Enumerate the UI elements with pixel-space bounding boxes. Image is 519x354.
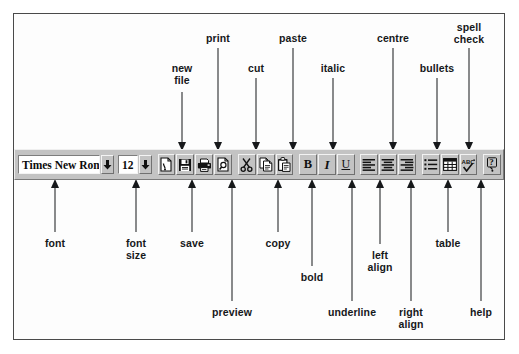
font-size-field[interactable]: 12 (118, 155, 138, 174)
spell-check-button[interactable]: ABC (460, 154, 478, 175)
callout-arrowhead-font (51, 179, 59, 188)
copy-pages-icon (259, 157, 273, 172)
callout-leader-left-align (380, 188, 381, 244)
italic-icon: I (324, 157, 329, 173)
chevron-down-icon (141, 159, 150, 170)
callout-leader-bold (312, 188, 313, 266)
question-mark-help-icon: ? (485, 157, 499, 172)
bold-button[interactable]: B (299, 154, 317, 175)
callout-arrowhead-left-align (376, 179, 384, 188)
new-file-icon (159, 157, 173, 172)
callout-leader-right-align (411, 188, 412, 301)
align-right-icon (400, 158, 414, 171)
callout-leader-print (218, 48, 219, 142)
printer-icon (197, 158, 212, 172)
callout-label-font-size: font size (126, 238, 146, 261)
callout-leader-bullets (437, 78, 438, 142)
bold-icon: B (304, 157, 312, 172)
callout-label-cut: cut (248, 63, 264, 75)
callout-arrowhead-preview (228, 179, 236, 188)
spell-check-abc-tick-icon: ABC (461, 158, 476, 172)
callout-label-preview: preview (212, 307, 252, 319)
bulleted-list-icon (424, 158, 438, 171)
callout-label-help: help (470, 307, 492, 319)
callout-label-font: font (45, 238, 65, 250)
callout-arrowhead-right-align (407, 179, 415, 188)
callout-leader-font-size (136, 188, 137, 232)
table-button[interactable] (441, 154, 459, 175)
callout-arrowhead-table (444, 179, 452, 188)
callout-leader-save (192, 188, 193, 232)
callout-leader-paste (293, 48, 294, 142)
centre-button[interactable] (379, 154, 397, 175)
callout-label-table: table (435, 238, 460, 250)
callout-label-centre: centre (377, 33, 409, 45)
bullets-button[interactable] (422, 154, 440, 175)
callout-label-spell-check: spell check (454, 22, 484, 45)
new-file-button[interactable] (158, 154, 176, 175)
callout-leader-preview (232, 188, 233, 301)
callout-leader-new-file (182, 92, 183, 142)
word-processor-toolbar: Times New Roman 12 (14, 149, 504, 180)
callout-label-left-align: left align (367, 250, 392, 273)
save-button[interactable] (176, 154, 194, 175)
callout-arrowhead-font-size (132, 179, 140, 188)
callout-leader-table (448, 188, 449, 232)
callout-leader-font (55, 188, 56, 232)
callout-label-bullets: bullets (420, 63, 455, 75)
callout-label-paste: paste (279, 33, 307, 45)
italic-button[interactable]: I (318, 154, 336, 175)
diagram-canvas: new fileprintcutpasteitaliccentrebullets… (0, 0, 519, 354)
callout-label-new-file: new file (172, 63, 193, 86)
callout-arrowhead-copy (274, 179, 282, 188)
callout-leader-spell-check (469, 48, 470, 142)
align-left-icon (362, 158, 376, 171)
callout-label-print: print (206, 33, 230, 45)
font-size-dropdown-button[interactable] (139, 155, 152, 174)
svg-text:?: ? (489, 157, 494, 167)
callout-arrowhead-underline (348, 179, 356, 188)
callout-leader-copy (278, 188, 279, 232)
callout-label-right-align: right align (398, 307, 423, 330)
callout-label-bold: bold (301, 272, 324, 284)
font-name-field[interactable]: Times New Roman (18, 155, 100, 174)
left-align-button[interactable] (360, 154, 378, 175)
copy-button[interactable] (257, 154, 275, 175)
svg-text:ABC: ABC (462, 159, 476, 165)
callout-leader-centre (393, 48, 394, 142)
underline-button[interactable]: U (337, 154, 355, 175)
cut-button[interactable] (238, 154, 256, 175)
callout-label-copy: copy (266, 238, 291, 250)
floppy-disk-icon (178, 158, 192, 172)
chevron-down-icon (103, 159, 112, 170)
callout-leader-italic (333, 78, 334, 142)
callout-arrowhead-bold (308, 179, 316, 188)
callout-label-save: save (180, 238, 204, 250)
underline-icon: U (341, 157, 350, 172)
font-name-dropdown-button[interactable] (101, 155, 114, 174)
callout-leader-underline (352, 188, 353, 301)
print-preview-icon (216, 157, 230, 172)
callout-arrowhead-help (477, 179, 485, 188)
preview-button[interactable] (214, 154, 232, 175)
align-centre-icon (381, 158, 395, 171)
callout-arrowhead-save (188, 179, 196, 188)
paste-button[interactable] (276, 154, 294, 175)
scissors-icon (240, 157, 253, 172)
print-button[interactable] (195, 154, 213, 175)
callout-label-underline: underline (328, 307, 376, 319)
callout-label-italic: italic (321, 63, 346, 75)
callout-leader-help (481, 188, 482, 301)
callout-leader-cut (256, 78, 257, 142)
table-grid-icon (443, 158, 457, 171)
right-align-button[interactable] (398, 154, 416, 175)
help-button[interactable]: ? (483, 154, 501, 175)
clipboard-icon (277, 157, 291, 172)
